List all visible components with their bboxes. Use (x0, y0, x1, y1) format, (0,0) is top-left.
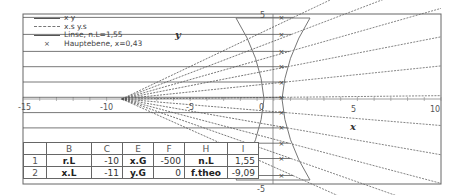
cell[interactable]: -11 (92, 167, 123, 179)
column-header[interactable]: F (154, 143, 185, 155)
solid-line-swatch (34, 35, 60, 36)
principal-plane-markers: ××××××××××× (278, 14, 284, 180)
x-marker-icon: × (34, 40, 60, 49)
y-axis-title: y (174, 29, 182, 40)
cell[interactable]: -9,09 (228, 167, 259, 179)
dashed-line-swatch (34, 26, 60, 27)
legend-item: × Hauptebene, x=0,43 (34, 40, 142, 49)
corner-cell[interactable] (24, 143, 47, 155)
cell[interactable]: x.L (47, 167, 92, 179)
x-tick-label: 10 (430, 105, 440, 114)
svg-text:×: × (278, 124, 284, 132)
x-axis-title: x (349, 121, 357, 132)
x-tick-label: -15 (18, 103, 31, 112)
svg-text:×: × (278, 48, 284, 56)
legend-label: Hauptebene, x=0,43 (64, 40, 142, 49)
column-header-row: B C E F H I (24, 143, 259, 155)
svg-text:×: × (278, 31, 284, 39)
svg-text:×: × (278, 109, 284, 117)
column-header[interactable]: C (92, 143, 123, 155)
x-tick-label: -5 (186, 103, 194, 112)
x-tick-label: 0 (259, 103, 264, 112)
x-tick-label: 5 (351, 105, 356, 114)
row-header[interactable]: 1 (24, 155, 47, 167)
y-tick-label: -5 (257, 185, 265, 194)
svg-text:×: × (278, 94, 284, 102)
cell[interactable]: 0 (154, 167, 185, 179)
spreadsheet-table: B C E F H I 1 r.L -10 x.G -500 n.L 1,55 … (23, 142, 259, 179)
cell[interactable]: -500 (154, 155, 185, 167)
column-header[interactable]: E (123, 143, 154, 155)
cell[interactable]: r.L (47, 155, 92, 167)
svg-text:×: × (278, 140, 284, 148)
cell[interactable]: f.theo (185, 167, 228, 179)
svg-text:×: × (278, 155, 284, 163)
svg-text:×: × (278, 79, 284, 87)
cell[interactable]: y.G (123, 167, 154, 179)
legend-item: x y (34, 14, 142, 23)
svg-text:×: × (278, 14, 284, 22)
table-row: 2 x.L -11 y.G 0 f.theo -9,09 (24, 167, 259, 179)
column-header[interactable]: H (185, 143, 228, 155)
svg-text:×: × (278, 172, 284, 180)
column-header[interactable]: B (47, 143, 92, 155)
x-tick-label: -10 (100, 103, 113, 112)
cell[interactable]: -10 (92, 155, 123, 167)
solid-line-swatch (34, 18, 60, 19)
y-tick-label: 5 (260, 11, 265, 20)
svg-text:×: × (278, 63, 284, 71)
table-row: 1 r.L -10 x.G -500 n.L 1,55 (24, 155, 259, 167)
row-header[interactable]: 2 (24, 167, 47, 179)
cell[interactable]: 1,55 (228, 155, 259, 167)
cell[interactable]: n.L (185, 155, 228, 167)
chart-legend: x y x.s y.s Linse, n.L=1,55 × Hauptebene… (34, 14, 142, 48)
cell[interactable]: x.G (123, 155, 154, 167)
column-header[interactable]: I (228, 143, 259, 155)
